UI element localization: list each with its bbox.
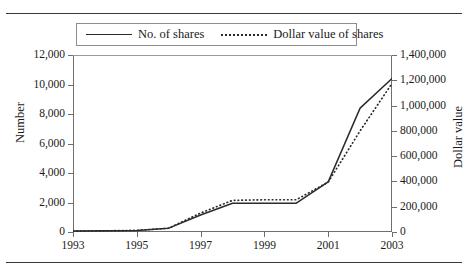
x-tick — [137, 232, 138, 237]
top-rule — [6, 13, 462, 14]
series-lines — [73, 55, 392, 232]
y-tick-right — [392, 106, 397, 107]
x-tick-label: 1999 — [253, 240, 276, 252]
y-tick-right — [392, 131, 397, 132]
x-tick-label: 1997 — [189, 240, 212, 252]
x-tick-label: 2003 — [381, 240, 404, 252]
y-tick-label-left: 10,000 — [33, 79, 65, 91]
legend-label-dollar-value-of-shares: Dollar value of shares — [273, 28, 383, 41]
y-tick-label-right: 400,000 — [400, 176, 437, 188]
y-tick-label-right: 1,400,000 — [400, 49, 446, 61]
legend-item-dollar-value-of-shares: Dollar value of shares — [221, 28, 383, 41]
x-tick — [201, 232, 202, 237]
y-axis-title-left: Number — [14, 102, 27, 143]
x-tick — [328, 232, 329, 237]
y-tick-label-left: 2,000 — [39, 197, 65, 209]
clipped-caption-text — [30, 0, 330, 9]
y-tick-right — [392, 181, 397, 182]
x-tick — [264, 232, 265, 237]
chart-legend: No. of shares Dollar value of shares — [76, 23, 357, 46]
series-line-dollar-value-of-shares — [73, 83, 392, 231]
x-tick — [392, 232, 393, 237]
y-tick-label-left: 4,000 — [39, 167, 65, 179]
x-tick-label: 2001 — [317, 240, 340, 252]
y-tick-right — [392, 207, 397, 208]
y-tick-label-right: 0 — [400, 226, 406, 238]
bottom-rule — [6, 262, 462, 263]
legend-label-no-of-shares: No. of shares — [138, 28, 204, 41]
x-tick — [73, 232, 74, 237]
y-axis-title-right: Dollar value — [452, 106, 465, 168]
series-line-no-of-shares — [73, 79, 392, 232]
figure-container: No. of shares Dollar value of shares Num… — [0, 0, 468, 273]
x-tick-label: 1995 — [125, 240, 148, 252]
y-tick-label-left: 12,000 — [33, 49, 65, 61]
y-tick-right — [392, 55, 397, 56]
dotted-line-swatch-icon — [221, 34, 267, 36]
y-tick-label-right: 1,200,000 — [400, 75, 446, 87]
y-tick-right — [392, 80, 397, 81]
y-tick-label-left: 0 — [59, 226, 65, 238]
y-tick-label-right: 800,000 — [400, 125, 437, 137]
y-tick-label-right: 600,000 — [400, 150, 437, 162]
legend-item-no-of-shares: No. of shares — [86, 28, 204, 41]
y-tick-right — [392, 156, 397, 157]
y-tick-label-right: 1,000,000 — [400, 100, 446, 112]
y-tick-label-left: 6,000 — [39, 138, 65, 150]
y-tick-label-left: 8,000 — [39, 108, 65, 120]
y-tick-label-right: 200,000 — [400, 201, 437, 213]
x-tick-label: 1993 — [62, 240, 85, 252]
plot-area: 02,0004,0006,0008,00010,00012,000 0200,0… — [73, 55, 392, 232]
solid-line-swatch-icon — [86, 34, 132, 35]
